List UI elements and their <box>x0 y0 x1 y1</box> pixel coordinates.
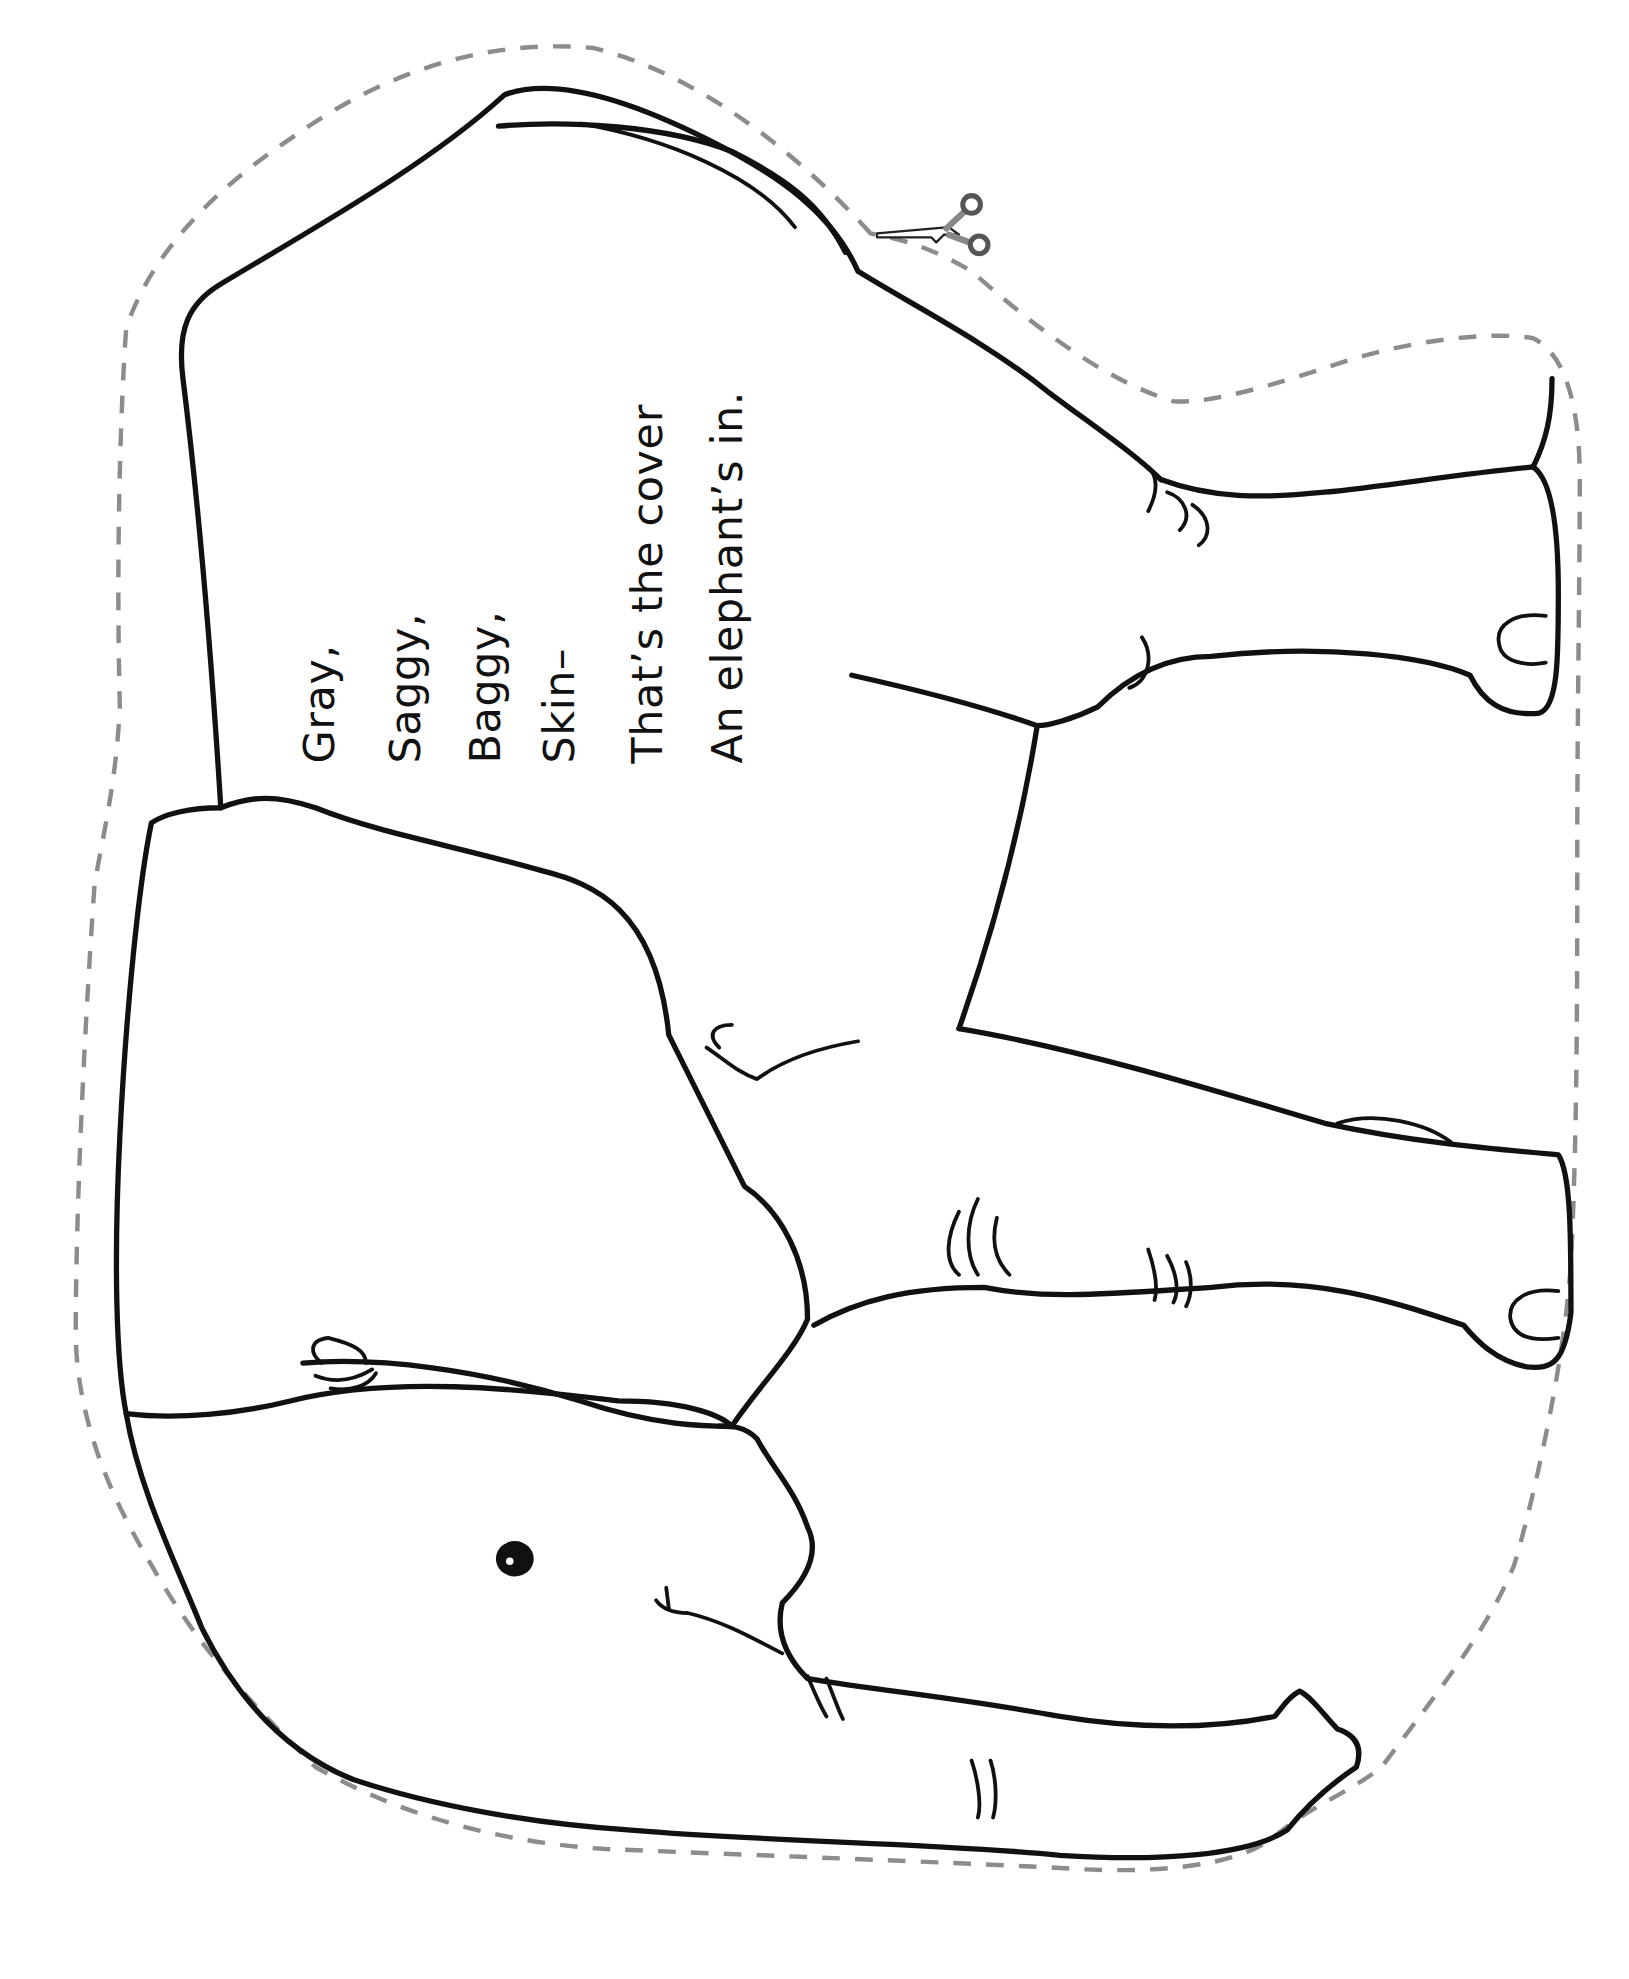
elephant-mouth <box>656 1600 782 1653</box>
elephant-head <box>126 1414 1359 1858</box>
elephant-chest <box>707 1041 858 1079</box>
elephant-front-toe <box>1510 1290 1558 1339</box>
elephant-hind-foot-top <box>1533 379 1552 467</box>
poem-line-6: An elephant’s in. <box>702 391 752 764</box>
elephant-front-leg <box>814 1029 1571 1368</box>
dashed-cut-line <box>76 46 1580 1870</box>
elephant-tail <box>498 124 845 252</box>
poem-line-5: That’s the cover <box>622 404 672 764</box>
elephant-knee-fold <box>713 1025 732 1048</box>
poem-line-1: Gray, <box>294 644 344 763</box>
elephant-belly-line <box>852 675 1037 1028</box>
poem-line-2: Saggy, <box>380 613 430 764</box>
elephant-illustration <box>116 88 1571 1857</box>
elephant-hind-leg <box>1037 467 1558 726</box>
poem-line-4: Skin– <box>534 648 584 764</box>
elephant-eye-highlight <box>506 1557 514 1565</box>
poem-line-3: Baggy, <box>460 611 510 764</box>
poem: Gray, Saggy, Baggy, Skin– That’s the cov… <box>294 391 752 765</box>
elephant-mouth-tick <box>666 1588 669 1608</box>
elephant-hind-toe <box>1499 615 1546 664</box>
elephant-front-leg-wrinkles <box>949 1199 1191 1306</box>
coloring-page: Gray, Saggy, Baggy, Skin– That’s the cov… <box>0 0 1629 1979</box>
elephant-trunk-wrinkles <box>808 1676 996 1817</box>
scissors-icon <box>877 196 988 254</box>
elephant-eye <box>496 1541 534 1576</box>
elephant-ear <box>116 798 807 1426</box>
